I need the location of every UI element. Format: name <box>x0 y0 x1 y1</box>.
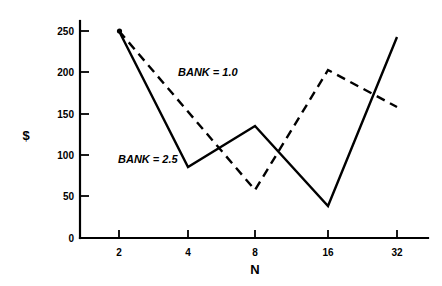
x-axis-ticks <box>119 230 397 238</box>
chart-figure: 250 200 150 100 50 0 2 4 8 16 32 $ N <box>0 0 442 286</box>
y-tick-label-50: 50 <box>63 191 75 202</box>
y-axis-tick-labels: 250 200 150 100 50 0 <box>57 26 74 244</box>
x-tick-label-8: 8 <box>252 247 258 258</box>
x-axis-tick-labels: 2 4 8 16 32 <box>116 247 403 258</box>
series-annotation-bank-1-0: BANK = 1.0 <box>178 66 238 78</box>
x-tick-label-32: 32 <box>391 247 403 258</box>
x-tick-label-16: 16 <box>322 247 334 258</box>
y-tick-label-150: 150 <box>57 109 74 120</box>
series-annotation-bank-2-5: BANK = 2.5 <box>118 153 178 165</box>
y-tick-label-100: 100 <box>57 150 74 161</box>
series-line-bank-1-0 <box>119 31 397 190</box>
y-axis-ticks <box>80 31 89 196</box>
x-axis-title: N <box>250 262 259 277</box>
x-tick-label-4: 4 <box>185 247 191 258</box>
y-axis-title: $ <box>22 128 30 143</box>
y-tick-label-200: 200 <box>57 67 74 78</box>
y-tick-label-0: 0 <box>68 233 74 244</box>
line-chart: 250 200 150 100 50 0 2 4 8 16 32 $ N <box>0 0 442 286</box>
y-tick-label-250: 250 <box>57 26 74 37</box>
series-line-bank-2-5 <box>119 31 397 206</box>
origin-marker <box>117 28 122 33</box>
x-tick-label-2: 2 <box>116 247 122 258</box>
